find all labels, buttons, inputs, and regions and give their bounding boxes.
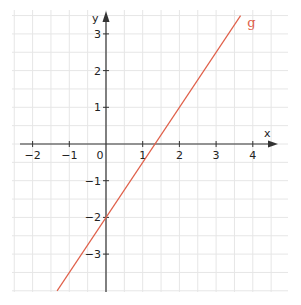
x-tick-label: 3 <box>213 149 220 162</box>
y-tick-label: −3 <box>85 248 101 261</box>
x-axis-label: x <box>264 127 271 140</box>
axes <box>20 11 278 292</box>
y-axis-arrow-icon <box>103 11 110 22</box>
coordinate-plot: −2−101234−3−2−1123 xyg <box>0 0 301 305</box>
x-tick-label: −1 <box>61 149 77 162</box>
y-tick-label: 2 <box>94 65 101 78</box>
y-tick-label: −1 <box>85 175 101 188</box>
x-axis-arrow-icon <box>268 141 278 148</box>
y-tick-label: −2 <box>85 211 101 224</box>
x-tick-label: 0 <box>97 149 104 162</box>
curve-label-g: g <box>247 15 255 30</box>
y-axis-label: y <box>92 12 99 25</box>
y-tick-label: 1 <box>94 101 101 114</box>
x-tick-label: 1 <box>139 149 146 162</box>
y-tick-label: 3 <box>94 28 101 41</box>
x-tick-label: 2 <box>176 149 183 162</box>
x-tick-label: −2 <box>24 149 40 162</box>
labels: xyg <box>92 12 271 140</box>
x-tick-label: 4 <box>249 149 256 162</box>
